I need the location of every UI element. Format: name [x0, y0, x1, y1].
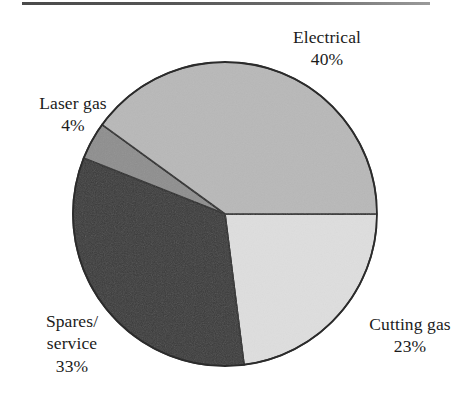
slice-label-laser-gas-value: 4%	[14, 114, 132, 136]
slice-label-cutting-gas-name: Cutting gas	[348, 313, 472, 335]
slice-label-spares-service-line2: service	[16, 332, 128, 354]
pie-chart-figure: Electrical 40% Laser gas 4% Spares/ serv…	[0, 0, 474, 406]
slice-label-cutting-gas: Cutting gas 23%	[348, 313, 472, 358]
slice-label-electrical-name: Electrical	[262, 26, 392, 48]
slice-label-electrical-value: 40%	[262, 48, 392, 70]
slice-label-spares-service-value: 33%	[16, 355, 128, 377]
slice-label-spares-service: Spares/ service 33%	[16, 310, 128, 377]
chart-plot-area: Electrical 40% Laser gas 4% Spares/ serv…	[0, 0, 474, 406]
slice-label-cutting-gas-value: 23%	[348, 335, 472, 357]
slice-label-laser-gas-name: Laser gas	[14, 92, 132, 114]
slice-label-spares-service-line1: Spares/	[16, 310, 128, 332]
slice-label-laser-gas: Laser gas 4%	[14, 92, 132, 137]
slice-label-electrical: Electrical 40%	[262, 26, 392, 71]
